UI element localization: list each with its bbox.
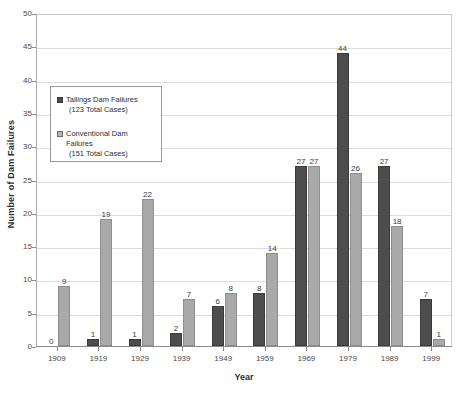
legend-sublabel-tailings: (123 Total Cases) (69, 105, 155, 115)
y-axis-tick-label: 30 (14, 142, 32, 151)
bar-conventional-1939 (183, 299, 195, 346)
x-axis-tick (98, 347, 99, 351)
bar-value-label: 22 (136, 190, 160, 199)
x-axis-title: Year (36, 372, 452, 382)
bar-conventional-1999 (433, 339, 445, 346)
y-axis-tick-label: 45 (14, 42, 32, 51)
legend-swatch-tailings-icon (57, 97, 63, 103)
legend-label-conventional: Conventional Dam Failures (66, 129, 155, 149)
legend-swatch-conventional-icon (57, 131, 63, 137)
y-axis-tick-label: 15 (14, 242, 32, 251)
legend-label-tailings: Tailings Dam Failures (66, 95, 138, 105)
x-axis-tick (431, 347, 432, 351)
x-axis-tick-label: 1939 (162, 354, 202, 363)
x-axis-tick-label: 1969 (286, 354, 326, 363)
gridline (37, 48, 451, 49)
bar-conventional-1959 (266, 253, 278, 346)
y-axis-title: Number of Dam Failures (0, 0, 22, 347)
x-axis-tick (265, 347, 266, 351)
x-axis-tick (182, 347, 183, 351)
bar-value-label: 44 (331, 44, 355, 53)
bar-tailings-1969 (295, 166, 307, 346)
x-axis-tick (223, 347, 224, 351)
bar-tailings-1979 (337, 53, 349, 346)
y-axis-tick-label: 50 (14, 9, 32, 18)
x-axis-tick (306, 347, 307, 351)
y-axis-tick (32, 347, 36, 348)
bar-value-label: 8 (219, 284, 243, 293)
y-axis-tick-label: 0 (14, 342, 32, 351)
x-axis-tick-label: 1959 (245, 354, 285, 363)
bar-value-label: 27 (302, 157, 326, 166)
bar-value-label: 14 (260, 244, 284, 253)
x-axis-tick-label: 1919 (78, 354, 118, 363)
chart-legend: Tailings Dam Failures (123 Total Cases) … (50, 86, 162, 162)
dam-failures-bar-chart: Number of Dam Failures 05101520253035404… (0, 0, 464, 399)
bar-value-label: 18 (385, 217, 409, 226)
bar-value-label: 7 (177, 290, 201, 299)
x-axis-tick-label: 1999 (411, 354, 451, 363)
x-axis-tick-label: 1979 (328, 354, 368, 363)
y-axis-tick-label: 25 (14, 176, 32, 185)
y-axis-tick-label: 20 (14, 209, 32, 218)
x-axis-tick (348, 347, 349, 351)
x-axis-tick (140, 347, 141, 351)
bar-tailings-1919 (87, 339, 99, 346)
bar-tailings-1959 (253, 293, 265, 346)
x-axis-tick-label: 1949 (203, 354, 243, 363)
bar-value-label: 7 (414, 290, 438, 299)
gridline (37, 82, 451, 83)
y-axis-tick-label: 10 (14, 275, 32, 284)
bar-tailings-1939 (170, 333, 182, 346)
bar-conventional-1919 (100, 219, 112, 346)
x-axis-tick-label: 1909 (37, 354, 77, 363)
legend-sublabel-conventional: (151 Total Cases) (69, 149, 155, 159)
legend-item-tailings: Tailings Dam Failures (123 Total Cases) (57, 95, 155, 115)
bar-conventional-1969 (308, 166, 320, 346)
plot-area: 09119122276881427274426271871 (36, 14, 452, 347)
bar-conventional-1909 (58, 286, 70, 346)
bar-value-label: 26 (344, 164, 368, 173)
x-axis-tick-label: 1929 (120, 354, 160, 363)
y-axis-tick-label: 5 (14, 309, 32, 318)
y-axis-tick-label: 40 (14, 76, 32, 85)
x-axis-tick (390, 347, 391, 351)
bar-tailings-1989 (378, 166, 390, 346)
bar-conventional-1979 (350, 173, 362, 346)
bar-conventional-1929 (142, 199, 154, 346)
bar-conventional-1949 (225, 293, 237, 346)
bar-value-label: 27 (372, 157, 396, 166)
bar-conventional-1989 (391, 226, 403, 346)
legend-item-conventional: Conventional Dam Failures (151 Total Cas… (57, 129, 155, 159)
bar-tailings-1929 (129, 339, 141, 346)
bar-tailings-1949 (212, 306, 224, 346)
y-axis-tick-label: 35 (14, 109, 32, 118)
x-axis-tick-label: 1989 (370, 354, 410, 363)
x-axis-tick (57, 347, 58, 351)
bar-value-label: 19 (94, 210, 118, 219)
bar-value-label: 1 (427, 330, 451, 339)
bar-value-label: 9 (52, 277, 76, 286)
